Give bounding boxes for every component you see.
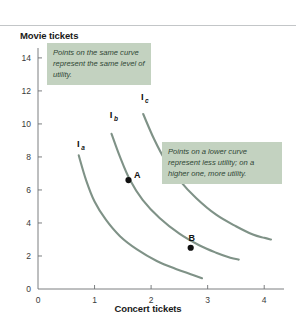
y-tick-label: 12 [22,86,32,96]
y-tick-label: 14 [22,53,32,63]
y-tick-label: 2 [26,251,31,261]
curve-labels-layer: IaIbIc [77,91,149,151]
data-point-label-B: B [188,233,195,243]
curve-label-Ic: I [141,91,144,102]
data-point-B[interactable] [188,245,194,251]
curve-label-Ia: I [77,138,80,149]
curve-label-Ib: I [110,109,113,120]
data-point-label-A: A [134,170,141,180]
curve-label-subscript-Ia: a [81,144,85,151]
data-point-A[interactable] [125,177,131,183]
y-tick-label: 10 [22,119,32,129]
annotation-same-curve: Points on the same curve represent the s… [47,43,151,85]
curve-label-subscript-Ib: b [114,115,118,122]
y-tick-label: 8 [26,152,31,162]
y-tick-label: 4 [26,218,31,228]
annotation-lower-curve: Points on a lower curve represent less u… [162,142,282,184]
curves-layer [79,114,271,278]
y-tick-label: 6 [26,185,31,195]
curve-label-subscript-Ic: c [145,97,149,104]
x-axis-title: Concert tickets [0,303,296,314]
y-tick-label: 0 [26,284,31,294]
figure-container: Movie tickets AB IaIbIc 0246810121401234… [0,0,296,325]
